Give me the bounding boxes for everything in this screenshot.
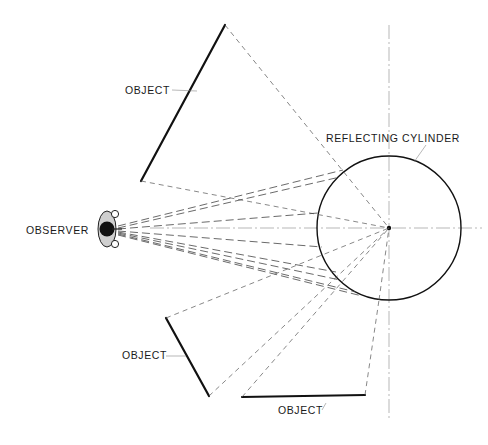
label-object-bottom: OBJECT [278,404,323,416]
observer-figure [98,210,122,247]
object-top-line [141,25,225,181]
object-bottom-line [242,395,365,397]
label-reflecting-cylinder: REFLECTING CYLINDER [326,132,460,144]
leader-object-top [172,90,197,91]
leader-cylinder [414,145,426,162]
observer-sight-rays [118,170,362,296]
label-object-left: OBJECT [122,349,167,361]
label-observer: OBSERVER [26,224,89,236]
reflecting-cylinder-diagram: OBJECT OBJECT OBJECT OBSERVER REFLECTING… [0,0,488,445]
object-left-line [166,318,209,396]
label-object-top: OBJECT [125,84,170,96]
